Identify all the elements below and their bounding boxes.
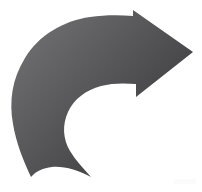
faint-corner-mark <box>174 179 196 184</box>
image-canvas <box>0 0 202 192</box>
curved-arrow-graphic <box>0 0 202 192</box>
